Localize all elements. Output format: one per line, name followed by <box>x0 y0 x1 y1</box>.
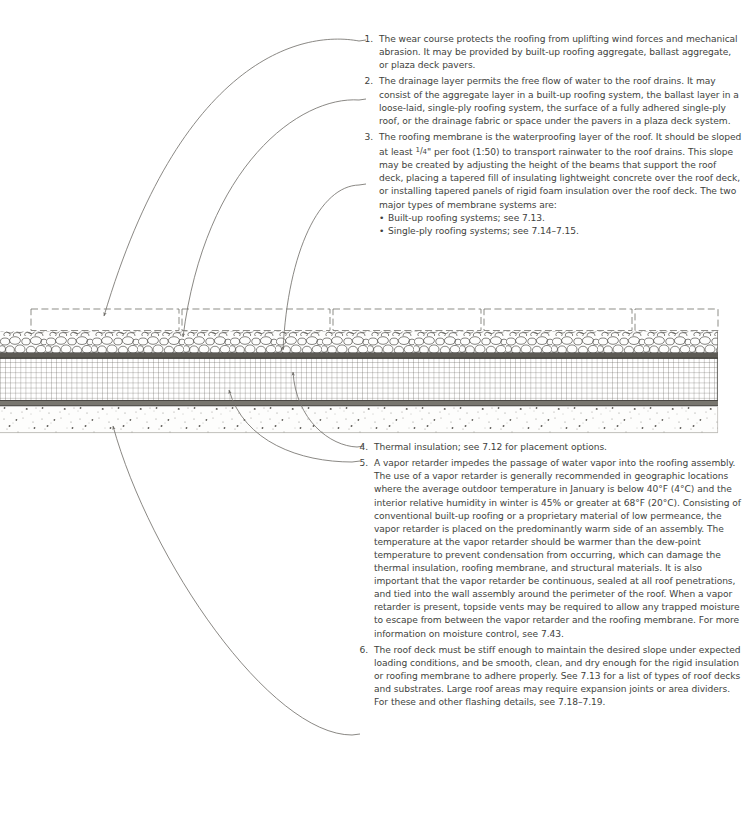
note-number-2: 2. <box>362 75 379 88</box>
note-number-6: 6. <box>357 644 374 657</box>
note-number-4: 4. <box>357 441 374 454</box>
leader-line-5 <box>229 390 352 462</box>
note-item-3: 3. The roofing membrane is the waterproo… <box>362 131 742 238</box>
bullet-dot-icon: • <box>379 212 388 225</box>
note-3-bullet-list: • Built-up roofing systems; see 7.13. • … <box>379 212 742 238</box>
layer-drainage-aggregate <box>0 332 718 353</box>
fraction-numerator: 1 <box>415 146 419 154</box>
note-text-5: A vapor retarder impedes the passage of … <box>374 457 745 640</box>
note-item-6: 6. The roof deck must be stiff enough to… <box>357 644 745 709</box>
notes-list-bottom: 4. Thermal insulation; see 7.12 for plac… <box>357 441 745 712</box>
leader-line-3 <box>283 185 359 350</box>
note-3-bullet-item-2: • Single-ply roofing systems; see 7.14–7… <box>379 225 742 238</box>
note-3-bullet-text-2: Single-ply roofing systems; see 7.14–7.1… <box>388 225 742 238</box>
note-text-3: The roofing membrane is the waterproofin… <box>379 131 742 238</box>
note-item-1: 1. The wear course protects the roofing … <box>362 33 742 72</box>
leader-tick-6 <box>352 734 360 735</box>
note-item-5: 5. A vapor retarder impedes the passage … <box>357 457 745 640</box>
note-text-6: The roof deck must be stiff enough to ma… <box>374 644 745 709</box>
leader-line-2 <box>183 100 359 337</box>
layer-roofing-membrane <box>0 352 718 358</box>
leader-line-4 <box>293 372 357 447</box>
note-text-2: The drainage layer permits the free flow… <box>379 75 742 127</box>
note-item-4: 4. Thermal insulation; see 7.12 for plac… <box>357 441 745 454</box>
notes-list-top: 1. The wear course protects the roofing … <box>362 33 742 241</box>
note-3-bullet-text-1: Built-up roofing systems; see 7.13. <box>388 212 742 225</box>
layer-wear-course <box>31 309 718 331</box>
bullet-dot-icon: • <box>379 225 388 238</box>
layer-roof-deck <box>0 407 718 433</box>
fraction-one-quarter: 1/4 <box>415 144 426 159</box>
note-3-bullet-item-1: • Built-up roofing systems; see 7.13. <box>379 212 742 225</box>
note-item-2: 2. The drainage layer permits the free f… <box>362 75 742 127</box>
note-number-5: 5. <box>357 457 374 470</box>
layer-thermal-insulation <box>0 359 718 401</box>
note-3-text-after: " per foot (1:50) to transport rainwater… <box>379 147 740 210</box>
leader-line-1 <box>104 39 359 316</box>
note-text-4: Thermal insulation; see 7.12 for placeme… <box>374 441 745 454</box>
leader-line-6 <box>113 426 352 735</box>
note-number-3: 3. <box>362 131 379 144</box>
note-number-1: 1. <box>362 33 379 46</box>
layer-vapor-retarder <box>0 400 718 406</box>
note-text-1: The wear course protects the roofing fro… <box>379 33 742 72</box>
page-canvas: 1. The wear course protects the roofing … <box>0 0 751 817</box>
